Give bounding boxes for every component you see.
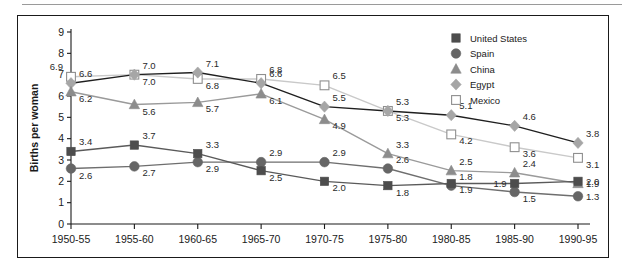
data-point-marker <box>573 137 583 148</box>
y-tick-label: 5 <box>58 111 64 123</box>
line-chart: 0123456789Births per woman1950-551955-60… <box>18 16 607 256</box>
data-label: 6.5 <box>333 70 346 81</box>
data-label: 2.4 <box>523 158 536 169</box>
data-label: 1.9 <box>493 178 506 189</box>
data-label: 5.3 <box>396 96 409 107</box>
data-point-marker <box>130 162 140 172</box>
x-tick-label: 1950-55 <box>52 233 91 245</box>
data-point-marker <box>446 110 456 121</box>
legend-item-china[interactable]: China <box>451 64 496 75</box>
data-point-marker <box>383 164 393 174</box>
y-tick-label: 4 <box>58 132 64 144</box>
data-label: 5.3 <box>396 112 409 123</box>
y-tick-label: 6 <box>58 90 64 102</box>
data-point-marker <box>193 157 203 167</box>
data-label: 4.6 <box>523 111 536 122</box>
data-point-marker <box>452 96 461 105</box>
legend-label: Egypt <box>470 79 495 90</box>
data-label: 6.1 <box>269 95 282 106</box>
data-point-marker <box>130 141 138 149</box>
data-point-marker <box>574 177 582 185</box>
data-point-marker <box>383 148 393 158</box>
legend-item-spain[interactable]: Spain <box>451 48 494 59</box>
data-point-marker <box>319 101 329 112</box>
data-label: 2.6 <box>79 170 92 181</box>
legend-item-mexico[interactable]: Mexico <box>452 95 500 106</box>
data-label: 3.8 <box>586 128 599 139</box>
x-tick-label: 1960-65 <box>178 233 217 245</box>
data-label: 4.2 <box>459 135 472 146</box>
y-tick-label: 0 <box>58 218 64 230</box>
top-divider-rule <box>22 4 622 5</box>
legend: United StatesSpainChinaEgyptMexico <box>451 33 527 106</box>
legend-label: Mexico <box>470 95 500 106</box>
data-point-marker <box>451 49 461 59</box>
data-label: 6.2 <box>79 93 92 104</box>
x-tick-label: 1985-90 <box>495 233 534 245</box>
y-tick-label: 2 <box>58 175 64 187</box>
data-label: 1.9 <box>459 184 472 195</box>
data-point-marker <box>447 130 456 139</box>
legend-item-egypt[interactable]: Egypt <box>451 79 495 90</box>
data-point-marker <box>384 181 392 189</box>
data-point-marker <box>66 86 76 96</box>
data-label: 2.6 <box>396 154 409 165</box>
x-tick-label: 1970-75 <box>305 233 344 245</box>
x-tick-label: 1955-60 <box>115 233 154 245</box>
data-label: 6.9 <box>50 61 63 72</box>
data-point-marker <box>509 120 519 131</box>
data-point-marker <box>319 114 329 124</box>
data-point-marker <box>194 149 202 157</box>
data-label: 5.7 <box>206 103 219 114</box>
data-label: 3.3 <box>206 139 219 150</box>
data-point-marker <box>573 191 583 201</box>
data-point-marker <box>574 153 583 162</box>
y-tick-label: 8 <box>58 47 64 59</box>
data-label: 1.3 <box>586 191 599 202</box>
data-point-marker <box>256 88 266 98</box>
data-label: 2.5 <box>269 172 282 183</box>
data-label: 3.4 <box>79 136 92 147</box>
data-point-marker <box>452 34 460 42</box>
data-label: 2.0 <box>333 182 346 193</box>
series-labels-spain: 2.62.72.92.92.92.61.81.51.3 <box>79 147 599 204</box>
data-point-marker <box>447 179 455 187</box>
data-point-marker <box>320 81 329 90</box>
data-label: 2.5 <box>459 156 472 167</box>
y-tick-label: 3 <box>58 154 64 166</box>
data-label: 2.9 <box>333 147 346 158</box>
data-label: 6.6 <box>79 68 92 79</box>
data-label: 3.7 <box>142 130 155 141</box>
x-tick-label: 1980-85 <box>432 233 471 245</box>
data-label: 1.9 <box>586 178 599 189</box>
data-point-marker <box>510 143 519 152</box>
data-label: 2.9 <box>206 163 219 174</box>
y-tick-label: 1 <box>58 196 64 208</box>
figure-container: 0123456789Births per woman1950-551955-60… <box>17 15 609 258</box>
data-point-marker <box>320 157 330 167</box>
legend-label: Spain <box>470 48 494 59</box>
data-label: 1.5 <box>523 193 536 204</box>
data-point-marker <box>320 177 328 185</box>
data-label: 5.5 <box>333 92 346 103</box>
data-point-marker <box>67 147 75 155</box>
data-label: 1.8 <box>459 171 472 182</box>
legend-item-united-states[interactable]: United States <box>452 33 527 44</box>
data-point-marker <box>451 64 461 74</box>
data-label: 3.6 <box>523 148 536 159</box>
data-label: 3.3 <box>396 139 409 150</box>
data-point-marker <box>510 187 520 197</box>
data-label: 4.9 <box>333 120 346 131</box>
data-label: 7.1 <box>206 58 219 69</box>
x-tick-label: 1975-80 <box>369 233 408 245</box>
data-point-marker <box>66 164 76 174</box>
y-axis-title: Births per woman <box>28 84 40 173</box>
data-label: 2.7 <box>142 167 155 178</box>
y-tick-label: 9 <box>58 26 64 38</box>
data-label: 5.6 <box>142 106 155 117</box>
data-label: 7.0 <box>142 76 155 87</box>
legend-label: China <box>470 64 496 75</box>
data-label: 3.1 <box>586 159 599 170</box>
data-label: 7.0 <box>142 60 155 71</box>
x-tick-label: 1965-70 <box>242 233 281 245</box>
